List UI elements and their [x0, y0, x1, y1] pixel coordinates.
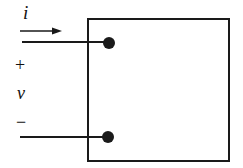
- current-arrow-icon: [20, 28, 62, 35]
- circuit-diagram: [0, 0, 243, 168]
- bottom-terminal-dot: [102, 131, 114, 143]
- plus-sign: +: [15, 56, 25, 74]
- current-label: i: [23, 3, 28, 22]
- minus-sign: −: [16, 113, 26, 131]
- top-terminal-dot: [103, 37, 115, 49]
- voltage-label: v: [17, 84, 25, 102]
